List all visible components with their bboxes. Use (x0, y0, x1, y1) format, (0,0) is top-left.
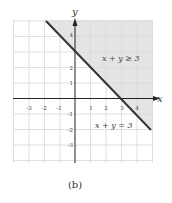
y-axis-label: y (71, 6, 78, 17)
svg-text:-3: -3 (26, 105, 32, 111)
svg-text:-1: -1 (56, 105, 61, 111)
svg-text:-1: -1 (68, 111, 73, 117)
x-tick-labels: -3 -2 -1 1 2 3 4 (26, 105, 139, 111)
figure-caption: (b) (0, 179, 150, 190)
equation-label: x + y = 3 (95, 121, 133, 130)
svg-text:4: 4 (135, 105, 139, 111)
svg-text:-3: -3 (68, 142, 74, 148)
svg-text:-2: -2 (41, 105, 46, 111)
svg-text:1: 1 (89, 105, 93, 111)
svg-text:3: 3 (120, 105, 124, 111)
inequality-label: x + y ≥ 3 (102, 54, 140, 63)
svg-text:2: 2 (104, 105, 108, 111)
svg-text:1: 1 (70, 80, 74, 86)
svg-text:2: 2 (70, 65, 74, 71)
inequality-graph: y x -3 -2 -1 1 2 3 4 4 2 1 -1 -2 -3 x + … (0, 0, 172, 203)
svg-text:-2: -2 (68, 127, 73, 133)
svg-text:4: 4 (70, 32, 74, 38)
x-axis-label: x (157, 93, 163, 104)
